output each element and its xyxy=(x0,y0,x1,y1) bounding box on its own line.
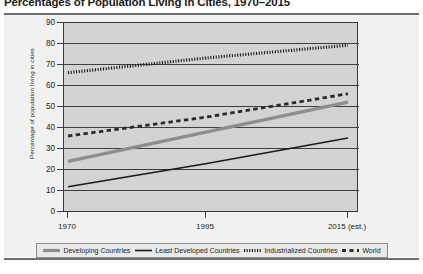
x-tick-label-2015: 2015 (est.) xyxy=(307,222,387,231)
legend-item-developing-countries[interactable]: Developing Countries xyxy=(43,247,130,254)
legend-item-industrialized-countries[interactable]: Industrialized Countries xyxy=(244,247,337,254)
page-title: Percentages of Population Living in Citi… xyxy=(4,0,419,9)
series-line-developing-countries xyxy=(68,102,348,161)
x-tick-label-1970: 1970 xyxy=(27,222,107,231)
series-layer xyxy=(63,22,358,212)
y-tick-label-90: 90 xyxy=(29,18,55,27)
series-line-industrialized-countries xyxy=(68,45,348,72)
y-tick-label-0: 0 xyxy=(29,207,55,216)
chart-figure: Percentages of Population Living in Citi… xyxy=(0,0,423,274)
x-tick-mark-1970 xyxy=(67,212,68,218)
y-tick-label-50: 50 xyxy=(29,102,55,111)
legend-item-world[interactable]: World xyxy=(342,247,380,254)
x-tick-mark-2015 xyxy=(347,212,348,218)
y-tick-label-20: 20 xyxy=(29,165,55,174)
y-tick-label-70: 70 xyxy=(29,60,55,69)
x-tick-label-1995: 1995 xyxy=(165,222,245,231)
dashed-line-swatch xyxy=(342,247,359,254)
y-tick-label-30: 30 xyxy=(29,144,55,153)
legend-label-industrialized-countries: Industrialized Countries xyxy=(264,247,337,254)
y-tick-label-60: 60 xyxy=(29,81,55,90)
x-tick-mark-1995 xyxy=(205,212,206,218)
series-line-least-developed-countries xyxy=(68,138,348,187)
dotted-line-swatch xyxy=(244,247,261,254)
y-tick-label-10: 10 xyxy=(29,186,55,195)
legend-label-world: World xyxy=(362,247,380,254)
legend-item-least-developed-countries[interactable]: Least Developed Countries xyxy=(135,247,239,254)
legend-label-least-developed-countries: Least Developed Countries xyxy=(155,247,239,254)
series-line-world xyxy=(68,94,348,136)
thin-black-line-swatch xyxy=(135,247,152,254)
y-tick-label-40: 40 xyxy=(29,123,55,132)
legend-label-developing-countries: Developing Countries xyxy=(63,247,130,254)
thick-gray-line-swatch xyxy=(43,247,60,254)
chart-legend: Developing Countries Least Developed Cou… xyxy=(36,243,388,258)
y-tick-label-80: 80 xyxy=(29,39,55,48)
footer-divider xyxy=(4,258,419,260)
